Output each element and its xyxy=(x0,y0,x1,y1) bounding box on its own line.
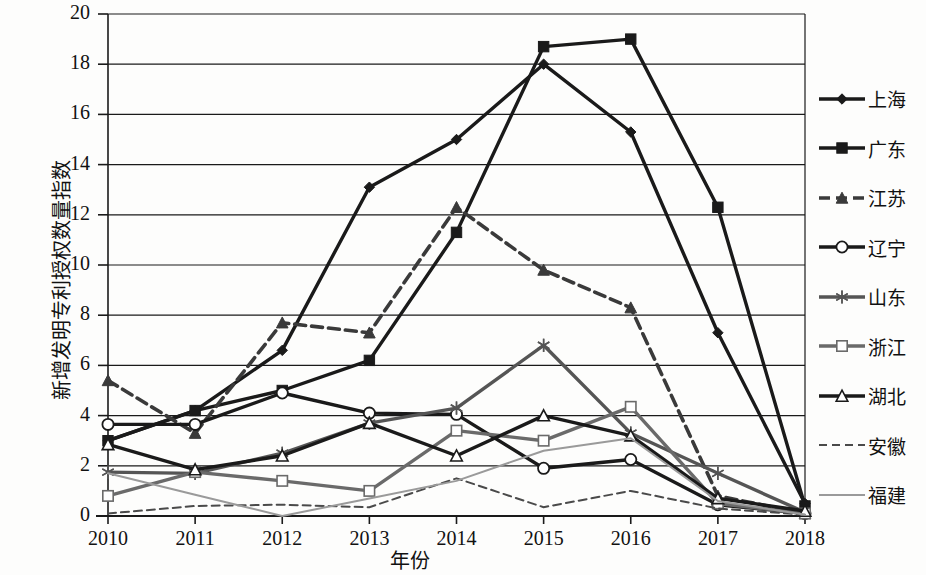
legend-item-label: 广东 xyxy=(868,135,906,162)
data-point-marker xyxy=(364,355,374,365)
data-point-marker xyxy=(538,463,549,474)
legend-item-label: 福建 xyxy=(868,481,906,508)
legend-key-icon xyxy=(818,386,866,406)
legend-item-江苏[interactable]: 江苏 xyxy=(818,173,926,223)
data-point-marker xyxy=(103,491,113,501)
x-axis-title: 年份 xyxy=(0,545,820,574)
data-series-group xyxy=(102,34,811,519)
legend-item-label: 安徽 xyxy=(868,432,906,459)
legend-item-label: 浙江 xyxy=(868,333,906,360)
data-point-marker xyxy=(364,486,374,496)
y-tick-label: 20 xyxy=(34,1,90,24)
legend-key-icon xyxy=(818,485,866,505)
y-tick-label: 2 xyxy=(34,453,90,476)
legend-marker xyxy=(837,341,847,351)
legend-item-湖北[interactable]: 湖北 xyxy=(818,371,926,421)
data-point-marker xyxy=(451,227,461,237)
legend-key-icon xyxy=(818,237,866,257)
data-point-marker xyxy=(102,419,113,430)
data-point-marker xyxy=(713,202,723,212)
y-tick-label: 18 xyxy=(34,51,90,74)
y-axis-title: 新增发明专利授权数量指数 xyxy=(46,130,75,430)
legend-key-icon xyxy=(818,287,866,307)
legend-item-广东[interactable]: 广东 xyxy=(818,124,926,174)
legend-item-label: 江苏 xyxy=(868,184,906,211)
series-广东 xyxy=(103,34,810,511)
y-tick-label: 0 xyxy=(34,503,90,526)
legend-item-浙江[interactable]: 浙江 xyxy=(818,322,926,372)
legend-item-上海[interactable]: 上海 xyxy=(818,74,926,124)
legend-key-icon xyxy=(818,89,866,109)
data-point-marker xyxy=(625,454,636,465)
legend-item-label: 上海 xyxy=(868,85,906,112)
legend-item-安徽[interactable]: 安徽 xyxy=(818,421,926,471)
series-上海 xyxy=(103,59,810,509)
legend-item-福建[interactable]: 福建 xyxy=(818,470,926,520)
legend-key-icon xyxy=(818,138,866,158)
data-point-marker xyxy=(190,405,200,415)
data-point-marker xyxy=(451,425,461,435)
legend-marker xyxy=(836,242,847,253)
x-axis-ticks xyxy=(108,516,805,524)
legend-marker xyxy=(837,143,847,153)
legend-item-山东[interactable]: 山东 xyxy=(818,272,926,322)
data-point-marker xyxy=(626,402,636,412)
data-point-marker xyxy=(102,375,114,386)
chart-container: 20181614121086420 2010201120122013201420… xyxy=(0,0,926,575)
data-point-marker xyxy=(538,41,548,51)
legend-item-辽宁[interactable]: 辽宁 xyxy=(818,223,926,273)
legend-item-label: 山东 xyxy=(868,283,906,310)
data-point-marker xyxy=(277,387,288,398)
line-chart-plot xyxy=(0,0,926,575)
legend-marker xyxy=(837,94,847,104)
legend-key-icon xyxy=(818,188,866,208)
legend-key-icon xyxy=(818,435,866,455)
data-point-marker xyxy=(190,419,201,430)
data-point-marker xyxy=(451,201,463,212)
legend-item-label: 湖北 xyxy=(868,382,906,409)
chart-legend: 上海广东江苏辽宁山东浙江湖北安徽福建 xyxy=(818,74,926,520)
data-point-marker xyxy=(538,436,548,446)
legend-key-icon xyxy=(818,336,866,356)
data-point-marker xyxy=(277,476,287,486)
series-line xyxy=(108,64,805,503)
legend-item-label: 辽宁 xyxy=(868,234,906,261)
data-point-marker xyxy=(626,34,636,44)
y-tick-label: 16 xyxy=(34,101,90,124)
